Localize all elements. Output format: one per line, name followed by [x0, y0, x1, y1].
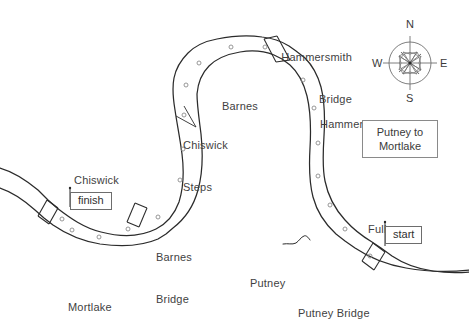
river-marker — [126, 227, 130, 231]
label-putney: Putney — [250, 251, 300, 316]
river-marker — [70, 228, 74, 232]
label-barnes-bridge-line1: Barnes — [156, 250, 208, 264]
putney-creek — [283, 236, 310, 244]
label-barnes-bridge: Barnes Bridge — [156, 222, 208, 323]
river-marker — [343, 227, 347, 231]
river-marker — [229, 45, 233, 49]
compass-hub — [408, 61, 411, 64]
river-marker — [263, 45, 267, 49]
label-putney-bridge-line1: Putney Bridge — [298, 307, 388, 320]
river-marker — [184, 83, 188, 87]
river-marker — [316, 174, 320, 178]
label-chiswick-steps-line2: Steps — [183, 180, 243, 194]
river-marker — [197, 61, 201, 65]
label-mortlake-line1: Mortlake — [68, 301, 130, 314]
river-marker — [178, 178, 182, 182]
map-title-line1: Putney to — [377, 125, 423, 139]
label-hammersmith-bridge-line1: Hammersmith — [268, 50, 352, 64]
label-putney-line1: Putney — [250, 277, 300, 290]
compass-rose — [383, 36, 437, 90]
label-putney-bridge: Putney Bridge — [298, 281, 388, 323]
label-barnes-bridge-line2: Bridge — [156, 292, 208, 306]
compass-label-east: E — [440, 57, 447, 69]
start-marker-tag[interactable]: start — [385, 226, 422, 244]
river-marker — [328, 203, 332, 207]
finish-leader-dot — [69, 187, 71, 189]
label-chiswick-line1: Chiswick — [74, 174, 134, 187]
map-title-box: Putney to Mortlake — [362, 120, 438, 158]
compass-label-north: N — [406, 18, 414, 30]
river-marker — [156, 215, 160, 219]
river-marker — [60, 217, 64, 221]
river-marker — [97, 235, 101, 239]
compass-label-west: W — [372, 57, 382, 69]
compass-label-south: S — [406, 92, 413, 104]
finish-marker-tag[interactable]: finish — [70, 192, 112, 210]
label-mortlake: Mortlake — [68, 275, 130, 323]
map-title-line2: Mortlake — [379, 139, 421, 153]
label-chiswick-steps-line1: Chiswick — [183, 138, 243, 152]
label-chiswick-steps: Chiswick Steps — [183, 110, 243, 222]
